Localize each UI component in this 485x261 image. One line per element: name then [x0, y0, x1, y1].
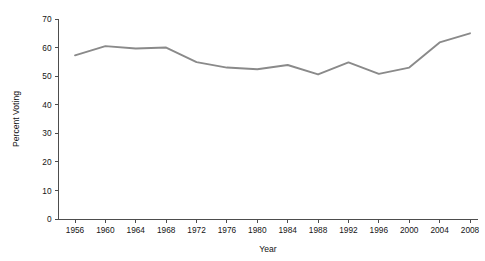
x-tick-label: 1988: [309, 225, 328, 235]
x-tick-label: 2008: [461, 225, 480, 235]
x-tick-label: 1996: [370, 225, 389, 235]
x-tick-label: 1972: [187, 225, 206, 235]
y-axis-tick-labels: 010203040506070: [42, 14, 52, 224]
y-tick-label: 20: [42, 157, 52, 167]
x-tick-label: 1960: [96, 225, 115, 235]
x-tick-label: 1964: [127, 225, 146, 235]
y-tick-label: 40: [42, 100, 52, 110]
voter-turnout-line-chart: 010203040506070 195619601964196819721976…: [0, 0, 485, 261]
x-tick-label: 1956: [66, 225, 85, 235]
y-tick-label: 0: [47, 214, 52, 224]
x-tick-label: 1984: [278, 225, 297, 235]
x-axis-title: Year: [259, 244, 277, 254]
y-tick-label: 50: [42, 71, 52, 81]
axis-lines: [59, 19, 479, 220]
x-axis-tick-labels: 1956196019641968197219761980198419881992…: [66, 225, 480, 235]
chart-plot-area: 010203040506070 195619601964196819721976…: [0, 0, 485, 261]
y-tick-label: 60: [42, 43, 52, 53]
x-tick-label: 1992: [339, 225, 358, 235]
x-tick-label: 1976: [218, 225, 237, 235]
y-tick-label: 10: [42, 186, 52, 196]
series-line-percent-voting: [75, 33, 470, 74]
y-axis-title: Percent Voting: [11, 91, 21, 147]
y-tick-label: 30: [42, 128, 52, 138]
x-tick-label: 2000: [400, 225, 419, 235]
x-tick-label: 1968: [157, 225, 176, 235]
y-tick-label: 70: [42, 14, 52, 24]
x-tick-label: 2004: [430, 225, 449, 235]
x-tick-label: 1980: [248, 225, 267, 235]
y-axis-ticks: [55, 19, 59, 219]
